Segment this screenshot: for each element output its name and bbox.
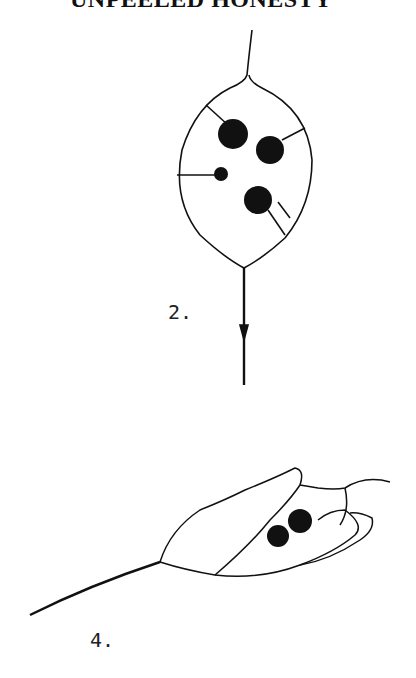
seeds <box>214 119 284 214</box>
figure-label-4: 4. <box>90 628 114 652</box>
side-pod-seeds <box>267 509 312 547</box>
figure-2-illustration <box>0 0 416 678</box>
figure-label-2: 2. <box>168 300 192 324</box>
side-pod-illustration <box>30 468 390 615</box>
pod-illustration <box>177 30 312 385</box>
